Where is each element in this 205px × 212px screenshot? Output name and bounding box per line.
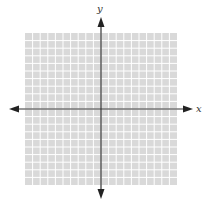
grid-svg (0, 0, 205, 212)
y-axis-label: y (97, 4, 103, 14)
y-axis-down-arrow-icon (98, 189, 105, 199)
x-axis-right-arrow-icon (183, 106, 193, 113)
x-axis-left-arrow-icon (9, 106, 19, 113)
y-axis-up-arrow-icon (98, 17, 105, 27)
x-axis-label: x (196, 104, 202, 114)
coordinate-plane: x y (0, 0, 205, 212)
